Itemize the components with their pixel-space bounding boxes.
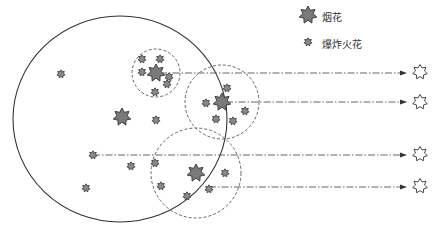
firework-icon: [187, 164, 205, 181]
spark-icon: [205, 185, 213, 193]
large-star-icon: [299, 6, 317, 23]
next-generation-firework-icon: [413, 147, 428, 161]
firework-icon: [147, 64, 165, 81]
spark-icon: [241, 107, 249, 115]
next-generation-firework-icon: [413, 179, 428, 193]
spark-icon: [57, 70, 65, 78]
legend-sparks-label: 爆炸火花: [322, 36, 362, 51]
spark-icon: [183, 192, 191, 200]
spark-icon: [202, 99, 210, 107]
spark-icon: [163, 80, 171, 88]
next-generation-firework-icon: [413, 95, 428, 109]
spark-icon: [223, 84, 231, 92]
spark-icon: [151, 88, 159, 96]
spark-icon: [89, 151, 97, 159]
spark-icon: [82, 184, 90, 192]
spark-icon: [152, 116, 160, 124]
spark-icon: [138, 55, 146, 63]
legend-fireworks-label: 烟花: [322, 9, 342, 24]
spark-icon: [165, 73, 173, 81]
spark-icon: [151, 159, 159, 167]
spark-icon: [229, 117, 237, 125]
firework-icon: [213, 93, 231, 110]
spark-icon: [212, 115, 220, 123]
fireworks-diagram: [0, 0, 440, 231]
spark-icon: [138, 68, 146, 76]
firework-icon: [113, 108, 131, 125]
spark-icon: [157, 182, 165, 190]
spark-icon: [221, 169, 229, 177]
spark-icon: [127, 162, 135, 170]
next-generation-firework-icon: [413, 65, 428, 79]
spark-icon: [156, 55, 164, 63]
small-star-icon: [304, 38, 312, 46]
